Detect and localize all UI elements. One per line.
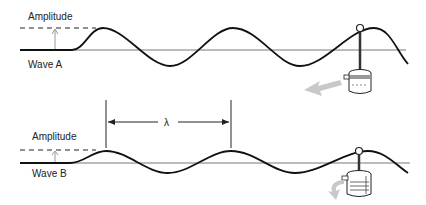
wave-b-name-label: Wave B [32,168,67,179]
wave-a-oscillator [344,25,371,94]
wave-a-curve [20,28,408,66]
wave-diagram: Amplitude Wave A λ Ampl [0,0,426,205]
wave-a-group: Amplitude Wave A [20,11,408,96]
wavelength-right-arrowhead-icon [222,119,229,125]
wave-a-amplitude-label: Amplitude [28,11,73,22]
wave-b-oscillator [342,148,371,197]
wave-a-name-label: Wave A [28,59,62,70]
wave-a-pin-icon [357,25,364,32]
wave-b-curve [20,151,408,173]
wave-a-rotation-arrow-icon [304,80,342,96]
wavelength-left-arrowhead-icon [108,119,115,125]
wave-b-amplitude-label: Amplitude [32,131,77,142]
wavelength-bracket: λ [106,100,231,148]
wavelength-symbol: λ [164,117,169,128]
wave-b-pin-icon [356,148,363,155]
wave-b-rotation-arrow-icon [328,180,344,200]
wave-b-group: Amplitude Wave B [20,131,410,200]
